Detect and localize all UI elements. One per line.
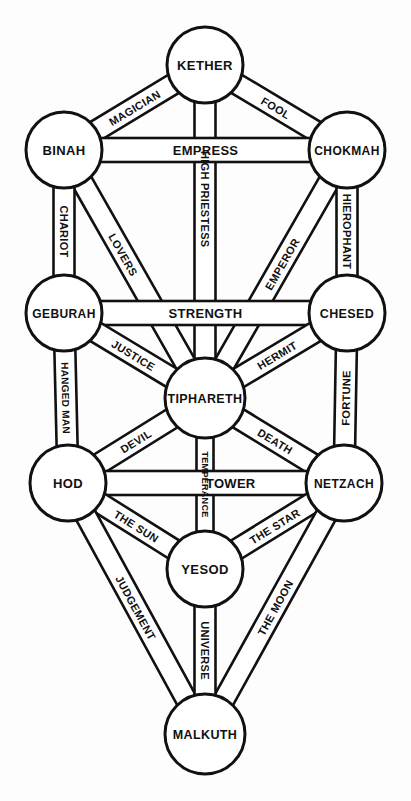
sephirah-label-netzach: NETZACH xyxy=(314,477,374,491)
tree-of-life-diagram: KETHERBINAHCHOKMAHGEBURAHCHESEDTIPHARETH… xyxy=(0,0,411,801)
sephirah-label-yesod: YESOD xyxy=(181,562,229,577)
path-label-high-priestess: HIGH PRIESTESS xyxy=(199,151,211,248)
sephirah-label-geburah: GEBURAH xyxy=(32,307,95,321)
path-label-hierophant: HIEROPHANT xyxy=(341,194,353,270)
path-label-hanged-man: HANGED MAN xyxy=(59,362,72,434)
path-label-fortune: FORTUNE xyxy=(340,370,353,425)
path-label-tower: TOWER xyxy=(206,476,256,491)
tree-of-life-canvas: KETHERBINAHCHOKMAHGEBURAHCHESEDTIPHARETH… xyxy=(0,0,411,801)
sephirah-label-binah: BINAH xyxy=(42,143,85,158)
sephirah-label-tiphareth: TIPHARETH xyxy=(167,392,242,406)
path-label-empress: EMPRESS xyxy=(173,143,239,158)
sephirah-label-malkuth: MALKUTH xyxy=(173,728,238,742)
sephirah-label-kether: KETHER xyxy=(177,58,233,73)
sephirah-label-chokmah: CHOKMAH xyxy=(314,144,379,158)
sephirah-label-hod: HOD xyxy=(53,476,83,491)
path-label-strength: STRENGTH xyxy=(169,306,243,321)
path-label-chariot: CHARIOT xyxy=(58,205,70,257)
path-label-universe: UNIVERSE xyxy=(199,621,211,680)
sephirah-label-chesed: CHESED xyxy=(320,307,375,321)
